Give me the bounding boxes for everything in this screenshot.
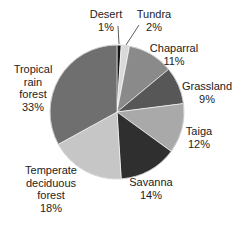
- slice-name: deciduous: [25, 177, 77, 190]
- slice-percent: 11%: [150, 55, 198, 68]
- slice-percent: 2%: [137, 21, 171, 34]
- slice-percent: 9%: [182, 93, 232, 106]
- slice-name: Savanna: [129, 176, 172, 189]
- slice-label: Tropicalrainforest33%: [14, 63, 53, 113]
- slice-name: Temperate: [25, 164, 77, 177]
- slice-label: Tundra2%: [137, 8, 171, 33]
- slice-name: Tropical: [14, 63, 53, 76]
- slice-name: Chaparral: [150, 42, 198, 55]
- slice-name: forest: [25, 189, 77, 202]
- slice-label: Taiga12%: [186, 125, 212, 150]
- slice-percent: 18%: [25, 202, 77, 215]
- slice-name: forest: [14, 88, 53, 101]
- slice-name: Desert: [90, 8, 122, 21]
- slice-label: Savanna14%: [129, 176, 172, 201]
- slice-percent: 14%: [129, 189, 172, 202]
- slice-name: Tundra: [137, 8, 171, 21]
- slice-label: Chaparral11%: [150, 42, 198, 67]
- slice-percent: 1%: [90, 21, 122, 34]
- slice-name: Grassland: [182, 80, 232, 93]
- slice-label: Temperatedeciduousforest18%: [25, 164, 77, 214]
- slice-name: rain: [14, 76, 53, 89]
- slice-label: Grassland9%: [182, 80, 232, 105]
- slice-percent: 12%: [186, 138, 212, 151]
- slice-name: Taiga: [186, 125, 212, 138]
- slice-percent: 33%: [14, 101, 53, 114]
- slice-label: Desert1%: [90, 8, 122, 33]
